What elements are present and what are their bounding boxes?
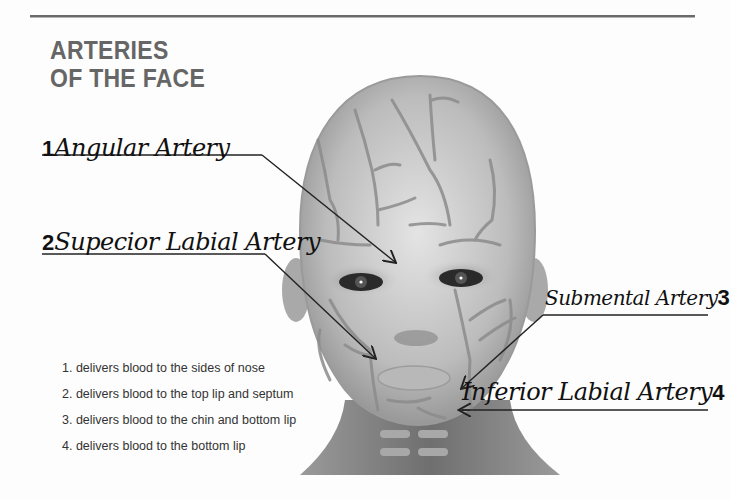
label-superior-labial-artery: 2Supecior Labial Artery: [42, 228, 320, 256]
label-inferior-labial-artery: Inferior Labial Artery4: [462, 378, 725, 406]
label-number: 1: [42, 136, 54, 161]
legend-item: 2. delivers blood to the top lip and sep…: [62, 386, 296, 412]
label-text: Supecior Labial Artery: [54, 228, 320, 256]
label-submental-artery: Submental Artery3: [545, 285, 730, 311]
nose: [394, 330, 438, 346]
label-text: Angular Artery: [54, 134, 229, 162]
label-angular-artery: 1Angular Artery: [42, 134, 230, 162]
legend-item: 1. delivers blood to the sides of nose: [62, 360, 296, 386]
label-number: 4: [712, 380, 724, 405]
label-number: 2: [42, 230, 54, 255]
legend-list: 1. delivers blood to the sides of nose 2…: [62, 360, 296, 464]
legend-item: 3. delivers blood to the chin and bottom…: [62, 412, 296, 438]
label-text: Inferior Labial Artery: [462, 378, 712, 406]
legend-item: 4. delivers blood to the bottom lip: [62, 438, 296, 464]
label-number: 3: [718, 285, 730, 310]
label-text: Submental Artery: [545, 286, 718, 310]
lips: [378, 366, 450, 390]
